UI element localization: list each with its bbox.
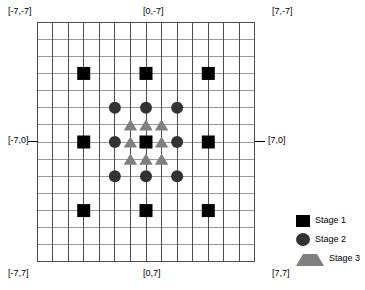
marker-square: [77, 67, 90, 80]
marker-triangle: [139, 119, 152, 130]
triangle-marker-icon: [296, 254, 324, 266]
legend: Stage 1 Stage 2 Stage 3: [296, 211, 362, 268]
marker-triangle: [155, 136, 168, 147]
marker-square: [140, 136, 153, 149]
corner-label-bottom-center: [0,7]: [143, 268, 161, 279]
marker-circle: [171, 136, 183, 148]
marker-square: [77, 136, 90, 149]
square-marker-icon: [296, 215, 310, 227]
marker-triangle: [124, 136, 137, 147]
corner-label-middle-right: [7,0]: [268, 135, 286, 146]
marker-square: [140, 204, 153, 217]
marker-circle: [109, 102, 121, 114]
legend-label-stage-1: Stage 1: [315, 215, 346, 226]
legend-label-stage-3: Stage 3: [329, 253, 360, 264]
marker-circle: [140, 170, 152, 182]
circle-marker-icon: [296, 233, 310, 246]
marker-triangle: [139, 154, 152, 165]
corner-label-middle-left: [-7,0]: [8, 135, 29, 146]
corner-label-bottom-right: [7,7]: [272, 268, 290, 279]
marker-circle: [171, 102, 183, 114]
marker-triangle: [124, 119, 137, 130]
legend-item-stage-2: Stage 2: [296, 230, 362, 249]
marker-triangle: [124, 154, 137, 165]
marker-triangle: [155, 119, 168, 130]
marker-circle: [171, 170, 183, 182]
marker-layer: [37, 22, 255, 262]
marker-square: [140, 67, 153, 80]
corner-label-top-right: [7,-7]: [272, 6, 293, 17]
marker-circle: [109, 170, 121, 182]
corner-label-top-left: [-7,-7]: [8, 6, 32, 17]
marker-square: [202, 136, 215, 149]
plot-area: [37, 22, 255, 262]
marker-square: [202, 67, 215, 80]
marker-square: [202, 204, 215, 217]
axis-tick-left: [28, 141, 38, 142]
legend-item-stage-3: Stage 3: [296, 249, 362, 268]
marker-circle: [109, 136, 121, 148]
corner-label-top-center: [0,-7]: [143, 6, 164, 17]
axis-tick-right: [255, 141, 265, 142]
marker-square: [77, 204, 90, 217]
corner-label-bottom-left: [-7,7]: [8, 268, 29, 279]
marker-circle: [140, 102, 152, 114]
marker-triangle: [155, 154, 168, 165]
legend-label-stage-2: Stage 2: [315, 234, 346, 245]
legend-item-stage-1: Stage 1: [296, 211, 362, 230]
